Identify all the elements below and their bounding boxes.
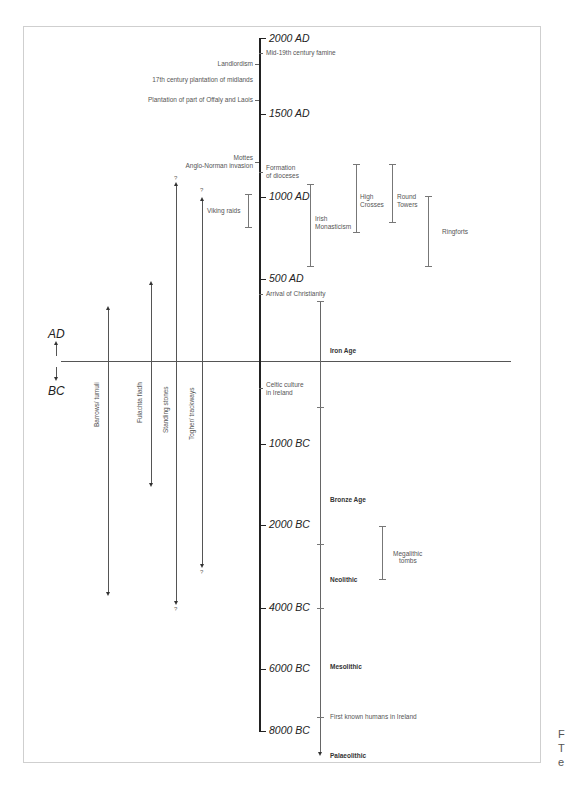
tick-2000bc	[259, 525, 266, 526]
era-8000bc: 8000 BC	[269, 724, 310, 736]
label-megalithic-line2: tombs	[399, 557, 417, 565]
bc-label: BC	[48, 384, 65, 398]
label-round-towers-line2: Towers	[397, 201, 418, 209]
label-standing-stones: Standing stones	[162, 386, 169, 433]
main-time-axis	[259, 38, 261, 732]
tick-first-humans	[317, 717, 324, 718]
label-high-crosses-line1: High	[360, 193, 373, 201]
tick-neolithic-mesolithic	[317, 608, 324, 609]
tick-6000bc	[259, 669, 266, 670]
event-famine: Mid-19th century famine	[266, 49, 336, 57]
range-monasticism-cap-bottom	[307, 266, 314, 267]
label-monasticism-line1: Irish	[315, 215, 327, 223]
tick-christianity	[259, 294, 263, 295]
label-high-crosses-line2: Crosses	[360, 201, 384, 209]
range-viking-cap-top	[245, 194, 252, 195]
event-anglo-norman: Anglo-Norman invasion	[185, 162, 253, 170]
era-1000bc: 1000 BC	[269, 437, 310, 449]
period-iron-age: Iron Age	[330, 347, 356, 354]
event-celtic-line2: in Ireland	[266, 389, 293, 397]
tick-famine	[259, 53, 263, 54]
label-fulachta: Fulachta fiadh	[136, 382, 143, 423]
label-round-towers-line1: Round	[397, 193, 416, 201]
event-dioceses-line1: Formation	[266, 164, 295, 172]
range-viking	[248, 194, 249, 227]
event-dioceses-line2: of dioceses	[266, 172, 299, 180]
era-6000bc: 6000 BC	[269, 662, 310, 674]
tick-2000ad	[259, 38, 266, 39]
arrow-fulachta	[151, 283, 152, 484]
tick-500ad	[259, 279, 266, 280]
label-viking: Viking raids	[207, 207, 240, 215]
event-mottes: Mottes	[233, 154, 253, 162]
tick-plantation-offaly	[255, 100, 259, 101]
side-text-fragment-3: e	[558, 756, 564, 768]
event-first-humans: First known humans in Ireland	[330, 713, 417, 721]
side-text-fragment-1: F	[558, 728, 565, 740]
tick-1000bc	[259, 444, 266, 445]
ad-arrow-icon	[54, 341, 58, 345]
tick-1000ad	[259, 197, 266, 198]
side-text-fragment-2: T	[558, 742, 565, 754]
period-axis-arrow-icon	[318, 752, 322, 756]
arrow-standing-stones	[176, 184, 177, 602]
tick-8000bc	[259, 731, 266, 732]
arrow-barrows-up-icon	[106, 306, 110, 310]
range-viking-cap-bottom	[245, 227, 252, 228]
uncertain-togher-top: ?	[200, 187, 203, 193]
tick-1500ad	[259, 114, 266, 115]
range-round-towers	[392, 164, 393, 222]
range-monasticism-cap-top	[307, 184, 314, 185]
tick-celtic	[259, 388, 263, 389]
era-4000bc: 4000 BC	[269, 601, 310, 613]
range-round-towers-cap-top	[389, 164, 396, 165]
tick-bronze-neolithic	[317, 544, 324, 545]
era-2000ad: 2000 AD	[269, 32, 309, 44]
arrow-fulachta-up-icon	[149, 281, 153, 285]
event-celtic-line1: Celtic culture	[266, 381, 304, 389]
label-ringforts: Ringforts	[442, 228, 468, 236]
event-plantation-offaly: Plantation of part of Offaly and Laois	[148, 96, 253, 104]
era-1500ad: 1500 AD	[269, 107, 309, 119]
tick-mottes	[255, 162, 259, 163]
period-bronze-age: Bronze Age	[330, 496, 366, 503]
uncertain-standing-stones-top: ?	[174, 175, 177, 181]
arrow-standing-stones-down-icon	[174, 601, 178, 605]
tick-dioceses	[259, 172, 263, 173]
event-landlordism: Landlordism	[218, 60, 253, 68]
event-christianity: Arrival of Christianity	[266, 290, 326, 298]
tick-iron-bronze	[317, 407, 324, 408]
period-axis	[320, 301, 321, 754]
era-1000ad: 1000 AD	[269, 190, 309, 202]
tick-landlordism	[255, 64, 259, 65]
label-togher: Togher/ trackways	[188, 388, 195, 440]
range-ringforts-cap-top	[425, 196, 432, 197]
arrow-standing-stones-up-icon	[174, 182, 178, 186]
uncertain-standing-stones-bottom: ?	[174, 606, 177, 612]
range-round-towers-cap-bottom	[389, 222, 396, 223]
period-mesolithic: Mesolithic	[330, 663, 362, 670]
range-high-crosses-cap-bottom	[353, 232, 360, 233]
ad-bc-divider	[61, 361, 511, 362]
uncertain-togher-bottom: ?	[200, 569, 203, 575]
arrow-barrows	[108, 308, 109, 594]
range-ringforts	[428, 196, 429, 266]
ad-label: AD	[48, 327, 65, 341]
arrow-togher-down-icon	[200, 564, 204, 568]
range-megalithic-cap-top	[379, 526, 386, 527]
period-neolithic: Neolithic	[330, 576, 357, 583]
arrow-togher	[202, 199, 203, 565]
range-megalithic-cap-bottom	[379, 579, 386, 580]
period-palaeolithic: Palaeolithic	[330, 752, 366, 759]
range-ringforts-cap-bottom	[425, 266, 432, 267]
label-monasticism-line2: Monasticism	[315, 223, 351, 231]
range-high-crosses	[356, 164, 357, 232]
period-axis-cap	[317, 301, 324, 302]
era-2000bc: 2000 BC	[269, 518, 310, 530]
event-plantation-midlands: 17th century plantation of midlands	[152, 76, 253, 84]
era-500ad: 500 AD	[269, 272, 304, 284]
arrow-togher-up-icon	[200, 197, 204, 201]
arrow-barrows-down-icon	[106, 592, 110, 596]
bc-arrow-icon	[54, 377, 58, 381]
ad-arrow-line	[56, 344, 57, 356]
